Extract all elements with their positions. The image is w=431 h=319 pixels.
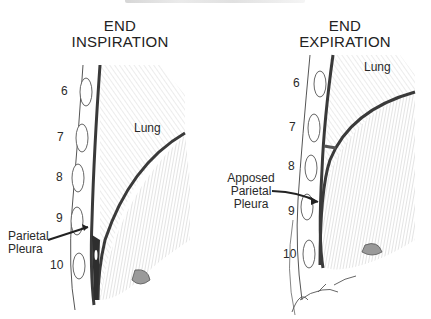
pleura-label: Parietal Pleura: [8, 230, 49, 256]
expiration-panel: [272, 55, 415, 315]
rib-label: 9: [288, 205, 295, 218]
pleura-label: Apposed Parietal Pleura: [222, 172, 280, 211]
rib-label: 6: [293, 77, 300, 90]
anatomy-illustration: [0, 0, 431, 319]
rib-label: 9: [56, 212, 63, 225]
rib-label: 8: [288, 160, 295, 173]
rib-label: 7: [57, 131, 64, 144]
lung-label: Lung: [364, 61, 391, 74]
rib-label: 7: [289, 121, 296, 134]
label-line: Pleura: [222, 198, 280, 211]
rib-label: 6: [61, 85, 68, 98]
rib-label: 8: [56, 171, 63, 184]
rib-label: 10: [50, 259, 63, 272]
lung-label: Lung: [134, 122, 161, 135]
inspiration-panel: [48, 65, 190, 310]
rib-label: 10: [283, 248, 296, 261]
label-line: Pleura: [8, 243, 49, 256]
